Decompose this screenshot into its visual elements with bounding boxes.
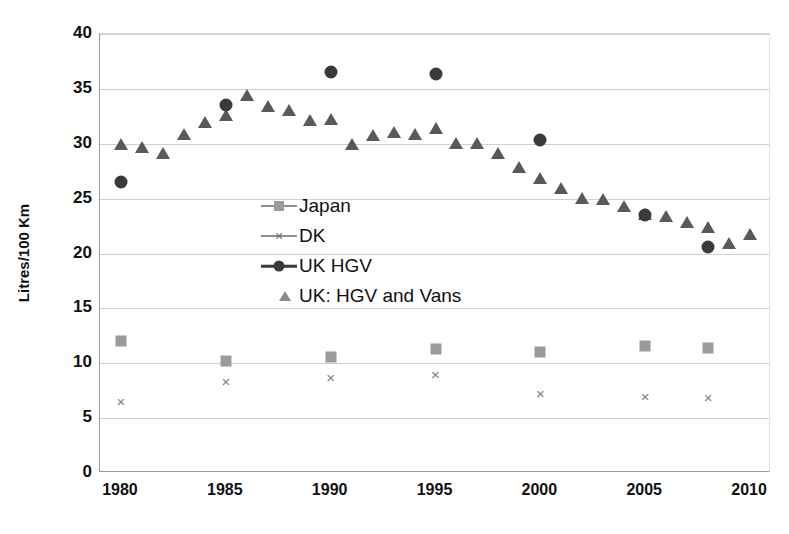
triangle-icon — [259, 285, 299, 307]
data-point — [491, 147, 505, 159]
data-point — [640, 340, 651, 351]
data-point — [702, 240, 715, 253]
data-point — [535, 347, 546, 358]
data-point — [198, 116, 212, 128]
legend-label: UK: HGV and Vans — [299, 285, 461, 307]
y-tick-label-40: 40 — [46, 23, 92, 43]
y-tick-label-20: 20 — [46, 243, 92, 263]
data-point — [596, 193, 610, 205]
data-point — [659, 210, 673, 222]
y-tick-label-10: 10 — [46, 352, 92, 372]
data-point — [534, 134, 547, 147]
data-point — [743, 228, 757, 240]
data-point — [470, 137, 484, 149]
x-tick-label-2005: 2005 — [626, 481, 662, 499]
data-point: × — [219, 375, 233, 389]
data-point: × — [114, 395, 128, 409]
y-tick-label-30: 30 — [46, 133, 92, 153]
y-tick-label-25: 25 — [46, 188, 92, 208]
y-axis-title: Litres/100 Km — [8, 0, 38, 534]
data-point — [156, 147, 170, 159]
y-tick-label-0: 0 — [46, 462, 92, 482]
gridline-40 — [100, 34, 769, 35]
square-with-line-icon — [259, 195, 299, 217]
legend-marker-glyph — [279, 291, 291, 301]
legend-item-2[interactable]: UK HGV — [259, 251, 509, 281]
x-tick-label-2010: 2010 — [731, 481, 767, 499]
data-point — [261, 100, 275, 112]
data-point — [114, 138, 128, 150]
legend-label: DK — [299, 225, 325, 247]
data-point — [408, 128, 422, 140]
data-point — [324, 66, 337, 79]
data-point — [366, 129, 380, 141]
circle-with-line-icon — [259, 255, 299, 277]
x-tick-label-2000: 2000 — [522, 481, 558, 499]
data-point — [617, 200, 631, 212]
legend-item-1[interactable]: ×DK — [259, 221, 509, 251]
x-axis-tick-labels: 1980198519901995200020052010 — [99, 481, 770, 507]
data-point — [220, 356, 231, 367]
data-point — [325, 351, 336, 362]
data-point — [703, 342, 714, 353]
legend-label: Japan — [299, 195, 351, 217]
legend-marker-glyph: × — [275, 229, 283, 243]
y-tick-label-5: 5 — [46, 407, 92, 427]
data-point — [554, 182, 568, 194]
data-point — [177, 128, 191, 140]
data-point — [701, 221, 715, 233]
data-point — [533, 172, 547, 184]
legend-label: UK HGV — [299, 255, 372, 277]
chart-legend: Japan×DKUK HGVUK: HGV and Vans — [259, 191, 509, 311]
data-point — [449, 137, 463, 149]
data-point — [345, 138, 359, 150]
data-point — [430, 343, 441, 354]
data-point: × — [429, 368, 443, 382]
legend-item-3[interactable]: UK: HGV and Vans — [259, 281, 509, 311]
gridline-35 — [100, 89, 769, 90]
gridline-10 — [100, 363, 769, 364]
legend-marker-glyph — [274, 261, 285, 272]
gridline-5 — [100, 418, 769, 419]
data-point — [512, 161, 526, 173]
x-tick-label-1980: 1980 — [102, 481, 138, 499]
data-point — [575, 192, 589, 204]
data-point — [219, 99, 232, 112]
data-point — [639, 209, 652, 222]
data-point — [114, 176, 127, 189]
y-axis-tick-labels: 0510152025303540 — [36, 33, 92, 472]
x-tick-label-1995: 1995 — [417, 481, 453, 499]
data-point: × — [638, 390, 652, 404]
data-point — [324, 113, 338, 125]
y-tick-label-15: 15 — [46, 297, 92, 317]
data-point — [282, 104, 296, 116]
y-axis-title-text: Litres/100 Km — [15, 204, 32, 302]
data-point: × — [533, 387, 547, 401]
data-point — [115, 336, 126, 347]
data-point — [303, 114, 317, 126]
y-tick-label-35: 35 — [46, 78, 92, 98]
data-point — [429, 122, 443, 134]
legend-marker-glyph — [274, 201, 284, 211]
legend-item-0[interactable]: Japan — [259, 191, 509, 221]
data-point: × — [701, 391, 715, 405]
data-point — [135, 141, 149, 153]
x-with-line-icon: × — [259, 225, 299, 247]
data-point: × — [324, 371, 338, 385]
x-tick-label-1985: 1985 — [207, 481, 243, 499]
plot-area: ××××××× Japan×DKUK HGVUK: HGV and Vans — [99, 33, 770, 472]
data-point — [680, 216, 694, 228]
chart-container: Litres/100 Km 0510152025303540 ××××××× J… — [0, 0, 789, 534]
gridline-30 — [100, 144, 769, 145]
data-point — [722, 237, 736, 249]
data-point — [240, 89, 254, 101]
data-point — [429, 67, 442, 80]
data-point — [387, 126, 401, 138]
x-tick-label-1990: 1990 — [312, 481, 348, 499]
